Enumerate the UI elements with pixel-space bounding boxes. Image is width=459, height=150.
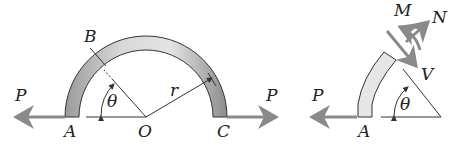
radius-r	[146, 78, 212, 117]
diagram-canvas: P A B θ O r C P P A θ M N V	[0, 0, 459, 150]
label-c: C	[217, 121, 230, 141]
radius-ob	[113, 80, 146, 117]
label-p-left: P	[14, 85, 27, 105]
label-p-fbd: P	[311, 85, 324, 105]
right-figure: P A θ M N V	[311, 0, 448, 141]
label-b: B	[83, 26, 97, 46]
label-a-fbd: A	[356, 121, 370, 141]
arch-segment	[358, 52, 396, 117]
semicircular-arch	[65, 36, 227, 117]
label-m: M	[393, 0, 412, 20]
label-v: V	[421, 64, 435, 84]
label-r: r	[170, 80, 179, 100]
label-theta-fbd: θ	[400, 94, 410, 114]
label-n: N	[431, 7, 448, 27]
label-theta-left: θ	[107, 91, 117, 111]
label-o: O	[138, 121, 152, 141]
label-p-right: P	[265, 85, 278, 105]
radius-ob-dash	[104, 70, 113, 80]
left-figure: P A B θ O r C P	[14, 26, 278, 141]
label-a-left: A	[62, 121, 76, 141]
